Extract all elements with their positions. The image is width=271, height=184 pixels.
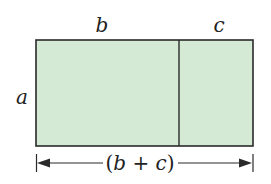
bottom-b: b: [113, 151, 126, 175]
bottom-c: c: [156, 151, 167, 175]
open-paren: (: [105, 151, 113, 175]
label-b-plus-c: (b + c): [105, 151, 174, 175]
label-b: b: [96, 13, 109, 37]
area-diagram: b c a (b + c): [0, 0, 271, 184]
right-arrowhead-icon: [239, 159, 252, 168]
label-a: a: [16, 85, 28, 109]
rectangle-b: [36, 40, 179, 146]
label-c: c: [213, 13, 224, 37]
plus-sign: +: [126, 151, 155, 175]
rectangle-c: [179, 40, 253, 146]
left-arrowhead-icon: [37, 159, 50, 168]
close-paren: ): [167, 151, 175, 175]
